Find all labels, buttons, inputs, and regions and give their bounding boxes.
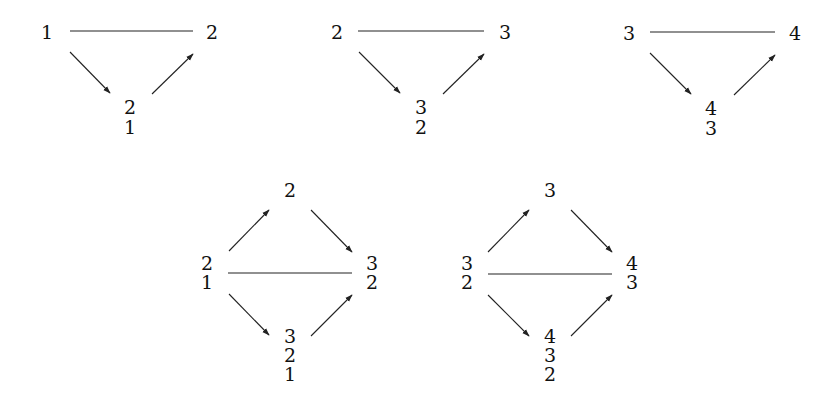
node-right-stack-1: 2 <box>366 271 378 293</box>
commutative-diagrams: 1 2 2 1 2 3 3 2 3 4 4 3 2 2 1 3 2 3 2 1 <box>0 0 835 407</box>
node-bottom-stack-0: 4 <box>705 97 717 119</box>
arrow-left-to-bottom <box>650 53 691 94</box>
arrow-bottom-to-right <box>734 55 775 95</box>
node-bottom-stack-1: 2 <box>415 116 427 138</box>
node-bottom-stack-1: 1 <box>124 116 136 138</box>
arrow-left-to-bottom <box>70 52 110 93</box>
arrow-left-to-top <box>488 210 529 252</box>
node-top: 3 <box>544 179 556 201</box>
arrow-bottom-to-right <box>443 54 484 94</box>
node-right: 2 <box>206 21 218 43</box>
triangle-diagram-1: 1 2 2 1 <box>41 21 218 138</box>
arrow-top-to-right <box>311 210 352 252</box>
node-right: 4 <box>789 22 801 44</box>
arrow-left-to-bottom <box>229 294 269 335</box>
arrow-top-to-right <box>571 210 612 252</box>
node-left: 2 <box>331 21 343 43</box>
arrow-bottom-to-right <box>571 295 612 336</box>
triangle-diagram-2: 2 3 3 2 <box>331 21 511 138</box>
node-bottom-stack-0: 2 <box>124 96 136 118</box>
arrow-left-to-bottom <box>488 295 529 336</box>
node-right-stack-1: 3 <box>626 271 638 293</box>
node-left-stack-1: 2 <box>461 271 473 293</box>
node-left-stack-1: 1 <box>201 271 213 293</box>
node-left: 1 <box>41 21 53 43</box>
arrow-left-to-bottom <box>359 52 400 93</box>
diamond-diagram-2: 3 3 2 4 3 4 3 2 <box>461 179 638 385</box>
arrow-bottom-to-right <box>152 54 193 94</box>
node-bottom-stack-2: 1 <box>284 363 296 385</box>
triangle-diagram-3: 3 4 4 3 <box>623 22 801 139</box>
diamond-diagram-1: 2 2 1 3 2 3 2 1 <box>201 179 378 385</box>
arrow-left-to-top <box>229 210 269 251</box>
node-left: 3 <box>623 22 635 44</box>
node-bottom-stack-2: 2 <box>544 363 556 385</box>
node-bottom-stack-0: 3 <box>415 96 427 118</box>
arrow-bottom-to-right <box>311 295 352 336</box>
node-top: 2 <box>284 179 296 201</box>
node-right: 3 <box>499 21 511 43</box>
node-bottom-stack-1: 3 <box>705 117 717 139</box>
